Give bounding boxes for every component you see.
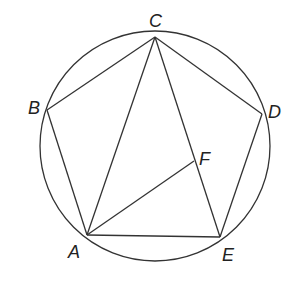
segment-ce xyxy=(155,37,220,237)
segment-ab xyxy=(47,110,87,235)
segment-bc xyxy=(47,37,155,110)
label-f: F xyxy=(199,150,210,168)
circumcircle xyxy=(40,31,270,261)
segment-de xyxy=(220,114,262,237)
label-a: A xyxy=(68,243,80,261)
segment-ac xyxy=(87,37,155,235)
segment-af xyxy=(87,161,194,235)
label-c: C xyxy=(149,12,162,30)
label-e: E xyxy=(222,246,234,264)
geometry-diagram: A B C D E F xyxy=(0,0,305,289)
label-d: D xyxy=(268,103,281,121)
diagram-canvas xyxy=(0,0,305,289)
label-b: B xyxy=(28,99,40,117)
segment-ea xyxy=(87,235,220,237)
